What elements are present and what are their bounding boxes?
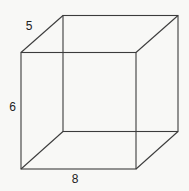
prism-diagram: 5 6 8 bbox=[0, 0, 189, 191]
edge-bottom-left-depth bbox=[21, 132, 63, 170]
depth-label: 5 bbox=[26, 19, 33, 33]
edge-bottom-right-depth bbox=[136, 132, 178, 170]
front-face bbox=[21, 53, 136, 170]
width-label: 8 bbox=[72, 172, 79, 186]
back-face bbox=[63, 16, 178, 132]
height-label: 6 bbox=[9, 100, 16, 114]
edge-top-right-depth bbox=[136, 16, 178, 53]
